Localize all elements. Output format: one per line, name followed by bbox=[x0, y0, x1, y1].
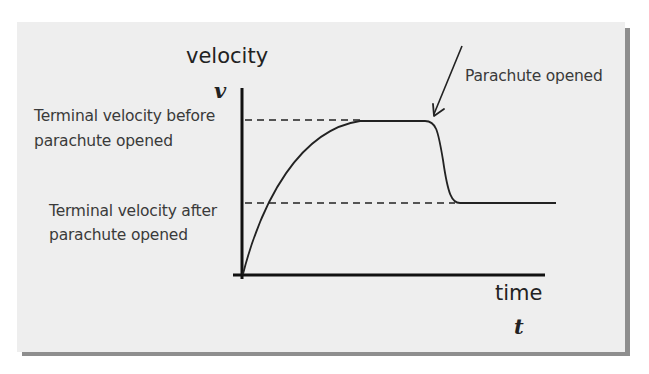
parachute-opened-label: Parachute opened bbox=[465, 66, 603, 86]
x-axis-symbol: t bbox=[514, 314, 524, 339]
y-axis-label: velocity bbox=[186, 44, 268, 68]
y-axis-symbol: v bbox=[214, 78, 226, 103]
terminal-after-label-line1: Terminal velocity after bbox=[49, 201, 217, 221]
terminal-before-label-line2: parachute opened bbox=[34, 131, 173, 151]
parachute-arrow-shaft bbox=[434, 46, 462, 114]
parachute-arrow-icon bbox=[433, 104, 444, 116]
terminal-before-label-line1: Terminal velocity before bbox=[34, 106, 215, 126]
velocity-time-graph bbox=[0, 0, 649, 374]
x-axis-label: time bbox=[495, 281, 542, 305]
terminal-after-label-line2: parachute opened bbox=[49, 225, 188, 245]
velocity-curve bbox=[243, 121, 556, 274]
